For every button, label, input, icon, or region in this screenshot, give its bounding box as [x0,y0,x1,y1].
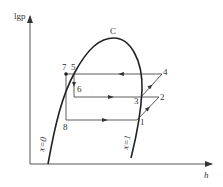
critical-point-label: C [110,26,116,36]
point-label-3: 3 [134,96,139,106]
lgp-h-diagram: lgp h C 7 5 6 8 4 3 2 1 x=0 x=1 [0,0,223,187]
point-label-7: 7 [62,62,67,72]
point-label-4: 4 [163,67,168,77]
arrow-6-3 [108,95,114,99]
x1-line-label: x=1 [120,134,133,151]
arrow-3-4 [147,84,152,89]
x0-line-label: x=0 [36,136,49,154]
point-label-1: 1 [140,117,145,127]
arrow-8-1 [102,118,108,122]
point-7-dot [64,72,68,76]
point-label-6: 6 [77,84,82,94]
point-label-5: 5 [71,62,76,72]
y-axis-label: lgp [14,11,26,21]
point-label-8: 8 [63,122,68,132]
arrow-4-5 [118,72,124,76]
saturated-liquid-line [48,38,114,164]
point-label-2: 2 [160,92,165,102]
arrow-5-6 [72,82,76,87]
x-axis-label: h [204,170,209,180]
